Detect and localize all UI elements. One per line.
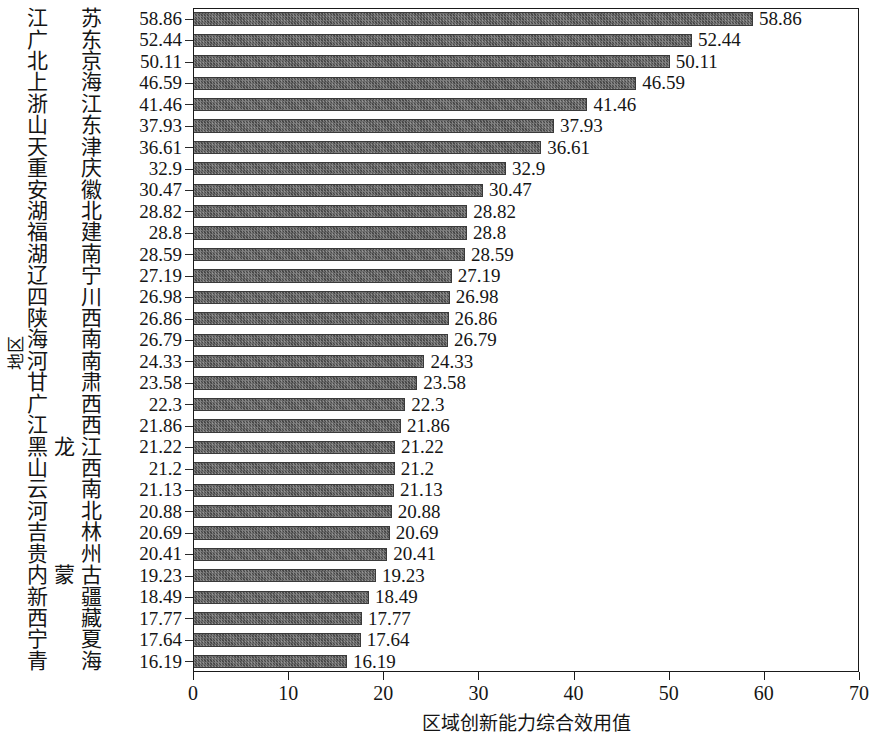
- y-axis-tick-label: 37.93: [120, 115, 182, 136]
- bar-row: 辽宁27.1927.19: [0, 265, 872, 286]
- region-label-char: 江: [24, 7, 51, 30]
- bar: [193, 548, 387, 561]
- region-label-char: 夏: [78, 628, 105, 651]
- bar: [193, 591, 369, 604]
- y-axis-tick-mark: [185, 447, 193, 448]
- region-label-char: 海: [78, 650, 105, 673]
- region-label-char: 龙: [51, 436, 78, 459]
- x-axis-tick-mark: [193, 672, 194, 680]
- bar-row: 广东52.4452.44: [0, 29, 872, 50]
- y-axis-tick-label: 21.22: [120, 436, 182, 457]
- x-axis-tick-label: 10: [258, 682, 318, 705]
- region-label-char: 上: [24, 71, 51, 94]
- bar: [193, 505, 392, 518]
- x-axis-tick-label: 20: [353, 682, 413, 705]
- y-axis-tick-mark: [185, 276, 193, 277]
- x-axis-tick-mark: [669, 672, 670, 680]
- bar-value-label: 30.47: [489, 179, 532, 200]
- bar-row: 江苏58.8658.86: [0, 8, 872, 29]
- y-axis-tick-label: 26.86: [120, 308, 182, 329]
- y-axis-tick-label: 17.64: [120, 629, 182, 650]
- bar-row: 西藏17.7717.77: [0, 608, 872, 629]
- bar: [193, 184, 483, 197]
- region-label-char: 庆: [78, 157, 105, 180]
- bar: [193, 34, 692, 47]
- y-axis-tick-mark: [185, 404, 193, 405]
- y-axis-tick-mark: [185, 83, 193, 84]
- bar-value-label: 26.98: [456, 286, 499, 307]
- bar-row: 福建28.828.8: [0, 222, 872, 243]
- y-axis-tick-label: 21.2: [120, 458, 182, 479]
- bar-row: 贵州20.4120.41: [0, 543, 872, 564]
- bar-value-label: 21.86: [407, 415, 450, 436]
- region-label-char: 苏: [78, 7, 105, 30]
- y-axis-tick-mark: [185, 126, 193, 127]
- bar-value-label: 27.19: [458, 265, 501, 286]
- y-axis-tick-mark: [185, 297, 193, 298]
- y-axis-tick-mark: [185, 511, 193, 512]
- y-axis-tick-mark: [185, 383, 193, 384]
- bar: [193, 12, 753, 25]
- bar-row: 内蒙古19.2319.23: [0, 565, 872, 586]
- bar-row: 海南26.7926.79: [0, 329, 872, 350]
- x-axis-line: [193, 671, 859, 672]
- bar-value-label: 26.86: [455, 308, 498, 329]
- bar-value-label: 21.2: [401, 458, 434, 479]
- y-axis-tick-label: 22.3: [120, 394, 182, 415]
- region-label-char: 甘: [24, 371, 51, 394]
- x-axis-tick-mark: [383, 672, 384, 680]
- region-label-char: 辽: [24, 264, 51, 287]
- region-label-char: 重: [24, 157, 51, 180]
- bar-row: 四川26.9826.98: [0, 286, 872, 307]
- region-label-char: 肃: [78, 371, 105, 394]
- bar: [193, 162, 506, 175]
- y-axis-tick-label: 27.19: [120, 265, 182, 286]
- bar-value-label: 37.93: [560, 115, 603, 136]
- y-axis-tick-label: 23.58: [120, 372, 182, 393]
- region-label-char: 云: [24, 478, 51, 501]
- bar: [193, 248, 465, 261]
- y-axis-tick-label: 46.59: [120, 72, 182, 93]
- y-axis-tick-mark: [185, 533, 193, 534]
- bar-value-label: 58.86: [759, 8, 802, 29]
- y-axis-tick-label: 21.13: [120, 479, 182, 500]
- bar: [193, 655, 347, 668]
- y-axis-tick-mark: [185, 62, 193, 63]
- bar: [193, 141, 541, 154]
- y-axis-tick-mark: [185, 597, 193, 598]
- y-axis-tick-mark: [185, 576, 193, 577]
- bar-row: 新疆18.4918.49: [0, 586, 872, 607]
- x-axis-tick-label: 50: [639, 682, 699, 705]
- bar-value-label: 50.11: [676, 51, 718, 72]
- bar: [193, 612, 362, 625]
- bar-value-label: 21.22: [401, 436, 444, 457]
- bar-row: 安徽30.4730.47: [0, 179, 872, 200]
- bar-row: 江西21.8621.86: [0, 415, 872, 436]
- bar-value-label: 52.44: [698, 29, 741, 50]
- bar-value-label: 21.13: [400, 479, 443, 500]
- region-label-char: 内: [24, 564, 51, 587]
- y-axis-tick-label: 28.59: [120, 244, 182, 265]
- bar-value-label: 19.23: [382, 565, 425, 586]
- y-axis-tick-mark: [185, 640, 193, 641]
- bar-row: 重庆32.932.9: [0, 158, 872, 179]
- bar: [193, 226, 467, 239]
- bar-row: 山东37.9337.93: [0, 115, 872, 136]
- y-axis-tick-label: 20.41: [120, 543, 182, 564]
- bar-value-label: 20.88: [398, 501, 441, 522]
- bar-value-label: 20.69: [396, 522, 439, 543]
- bar-rows-container: 江苏58.8658.86广东52.4452.44北京50.1150.11上海46…: [0, 8, 872, 672]
- bar-row: 天津36.6136.61: [0, 137, 872, 158]
- region-label-char: 西: [78, 414, 105, 437]
- y-axis-tick-label: 20.88: [120, 501, 182, 522]
- bar: [193, 569, 376, 582]
- region-label-char: 宁: [24, 628, 51, 651]
- y-axis-tick-label: 17.77: [120, 608, 182, 629]
- y-axis-tick-label: 50.11: [120, 51, 182, 72]
- y-axis-tick-mark: [185, 190, 193, 191]
- y-axis-tick-label: 16.19: [120, 651, 182, 672]
- y-axis-tick-mark: [185, 104, 193, 105]
- y-axis-tick-label: 36.61: [120, 137, 182, 158]
- bar: [193, 462, 395, 475]
- y-axis-tick-label: 26.98: [120, 286, 182, 307]
